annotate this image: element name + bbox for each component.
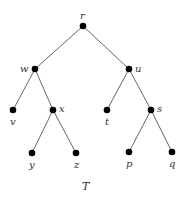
node-q bbox=[169, 149, 176, 156]
node-s bbox=[148, 107, 155, 114]
label-v: v bbox=[10, 117, 16, 127]
edges bbox=[13, 26, 172, 153]
label-z: z bbox=[74, 160, 79, 170]
node-v bbox=[10, 107, 17, 114]
node-u bbox=[126, 66, 133, 73]
node-t bbox=[104, 107, 111, 114]
node-w bbox=[32, 66, 39, 73]
label-p: p bbox=[126, 159, 132, 169]
node-z bbox=[73, 150, 80, 157]
label-t: t bbox=[105, 117, 109, 127]
label-y: y bbox=[29, 160, 35, 170]
label-u: u bbox=[135, 64, 141, 74]
node-x bbox=[50, 107, 57, 114]
label-r: r bbox=[80, 11, 85, 21]
nodes bbox=[10, 23, 176, 157]
tree-caption: T bbox=[82, 180, 89, 193]
label-x: x bbox=[59, 104, 65, 114]
node-p bbox=[126, 149, 133, 156]
tree-diagram bbox=[0, 0, 189, 203]
label-w: w bbox=[20, 64, 29, 74]
label-s: s bbox=[157, 104, 162, 114]
node-y bbox=[29, 150, 36, 157]
label-q: q bbox=[169, 159, 175, 169]
node-r bbox=[80, 23, 87, 30]
